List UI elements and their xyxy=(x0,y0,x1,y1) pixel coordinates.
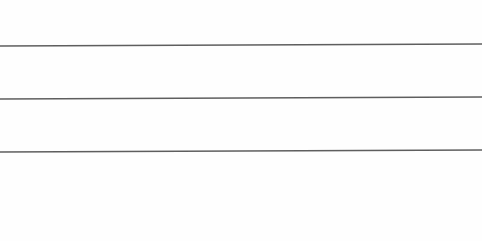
writing-lines xyxy=(0,0,482,241)
writing-line-3 xyxy=(0,150,482,152)
writing-line-1 xyxy=(0,44,482,46)
document-page xyxy=(0,0,482,241)
ruled-lines-area xyxy=(0,0,482,241)
writing-line-2 xyxy=(0,97,482,99)
